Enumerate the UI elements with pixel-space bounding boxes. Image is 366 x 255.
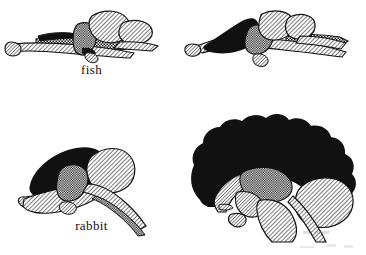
panel-label-rabbit: rabbit [0,218,183,234]
comparative-brain-figure: fish reptile rabbit man [0,0,366,255]
panel-rabbit: rabbit [0,120,183,242]
panel-fish: fish [0,0,183,92]
panel-reptile: reptile [183,0,366,92]
panel-man: man [183,108,366,242]
panel-label-fish: fish [0,62,183,78]
